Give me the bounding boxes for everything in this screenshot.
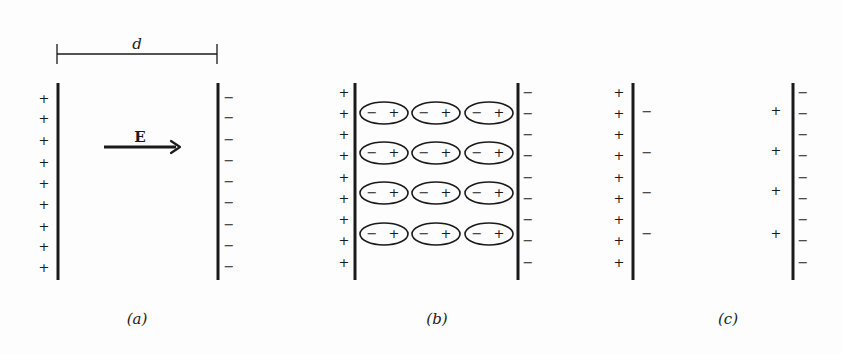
- dipole-molecule: −+: [360, 182, 408, 204]
- bound-positive-charge: +: [771, 103, 782, 118]
- dipole-negative-end: −: [472, 226, 483, 241]
- capacitor-dielectric-figure: +++++++++−−−−−−−−−dE(a) +++++++++−−−−−−−…: [0, 0, 842, 354]
- panel-b-polarized-dielectric: +++++++++−−−−−−−−−−+−+−+−+−+−+−+−+−+−+−+…: [339, 83, 534, 328]
- panel-a-empty-capacitor: +++++++++−−−−−−−−−dE(a): [39, 35, 235, 328]
- positive-charge: +: [339, 148, 350, 163]
- positive-charge: +: [39, 133, 50, 148]
- dipole-negative-end: −: [367, 145, 378, 160]
- negative-charge: −: [523, 127, 534, 142]
- negative-charge: −: [798, 106, 809, 121]
- positive-charge: +: [339, 85, 350, 100]
- panel-caption: (c): [718, 310, 738, 328]
- bound-positive-charge: +: [771, 183, 782, 198]
- dipole-negative-end: −: [472, 105, 483, 120]
- dipole-positive-end: +: [389, 145, 400, 160]
- negative-charge: −: [523, 106, 534, 121]
- positive-charge: +: [614, 212, 625, 227]
- plate-separation-label: d: [132, 35, 142, 53]
- bound-positive-charge: +: [771, 143, 782, 158]
- positive-charge: +: [39, 197, 50, 212]
- negative-charge: −: [523, 170, 534, 185]
- bound-negative-charge: −: [642, 104, 653, 119]
- bound-positive-charge: +: [771, 226, 782, 241]
- negative-charge: −: [224, 195, 235, 210]
- negative-charge: −: [798, 212, 809, 227]
- dipole-positive-end: +: [494, 226, 505, 241]
- negative-charge: −: [224, 153, 235, 168]
- panel-caption: (b): [426, 310, 447, 328]
- positive-charge: +: [339, 106, 350, 121]
- negative-charge: −: [798, 191, 809, 206]
- dipole-negative-end: −: [367, 226, 378, 241]
- panel-c-bound-surface-charges: +++++++++−−−−−−−−−−−−−++++(c): [614, 83, 809, 328]
- dipole-molecule: −+: [360, 142, 408, 164]
- negative-charge: −: [798, 127, 809, 142]
- positive-charge: +: [339, 233, 350, 248]
- dipole-molecule: −+: [412, 182, 460, 204]
- negative-charge: −: [798, 233, 809, 248]
- dipole-negative-end: −: [419, 226, 430, 241]
- negative-charge: −: [224, 90, 235, 105]
- dipole-negative-end: −: [367, 105, 378, 120]
- bound-negative-charge: −: [642, 145, 653, 160]
- positive-charge: +: [614, 85, 625, 100]
- dipole-positive-end: +: [494, 185, 505, 200]
- positive-charge: +: [39, 155, 50, 170]
- bound-negative-charge: −: [642, 185, 653, 200]
- dipole-positive-end: +: [441, 185, 452, 200]
- negative-charge: −: [798, 255, 809, 270]
- positive-charge: +: [614, 255, 625, 270]
- positive-charge: +: [39, 239, 50, 254]
- negative-charge: −: [224, 259, 235, 274]
- positive-charge: +: [339, 191, 350, 206]
- dipole-molecule: −+: [465, 223, 513, 245]
- negative-charge: −: [523, 255, 534, 270]
- negative-charge: −: [798, 85, 809, 100]
- positive-charge: +: [39, 219, 50, 234]
- dipole-positive-end: +: [494, 105, 505, 120]
- negative-charge: −: [523, 233, 534, 248]
- negative-charge: −: [798, 170, 809, 185]
- negative-charge: −: [523, 191, 534, 206]
- dipole-negative-end: −: [419, 145, 430, 160]
- bound-negative-charge: −: [642, 226, 653, 241]
- dipole-molecule: −+: [360, 102, 408, 124]
- dipole-molecule: −+: [412, 223, 460, 245]
- negative-charge: −: [224, 238, 235, 253]
- negative-charge: −: [523, 148, 534, 163]
- positive-charge: +: [614, 170, 625, 185]
- dipole-positive-end: +: [441, 226, 452, 241]
- negative-charge: −: [224, 132, 235, 147]
- negative-charge: −: [224, 217, 235, 232]
- dipole-positive-end: +: [389, 185, 400, 200]
- dipole-molecule: −+: [412, 102, 460, 124]
- positive-charge: +: [339, 255, 350, 270]
- dipole-positive-end: +: [441, 145, 452, 160]
- panel-caption: (a): [127, 310, 148, 328]
- dipole-molecule: −+: [465, 182, 513, 204]
- dipole-molecule: −+: [412, 142, 460, 164]
- dipole-negative-end: −: [419, 105, 430, 120]
- positive-charge: +: [614, 106, 625, 121]
- dipole-positive-end: +: [389, 105, 400, 120]
- positive-charge: +: [339, 212, 350, 227]
- dipole-molecule: −+: [465, 142, 513, 164]
- positive-charge: +: [614, 233, 625, 248]
- dipole-molecule: −+: [465, 102, 513, 124]
- dipole-negative-end: −: [472, 145, 483, 160]
- dipole-positive-end: +: [494, 145, 505, 160]
- dipole-positive-end: +: [389, 226, 400, 241]
- dipole-positive-end: +: [441, 105, 452, 120]
- dipole-negative-end: −: [472, 185, 483, 200]
- positive-charge: +: [339, 127, 350, 142]
- dipole-negative-end: −: [419, 185, 430, 200]
- positive-charge: +: [614, 127, 625, 142]
- negative-charge: −: [523, 85, 534, 100]
- negative-charge: −: [224, 110, 235, 125]
- negative-charge: −: [523, 212, 534, 227]
- dipole-negative-end: −: [367, 185, 378, 200]
- figure-svg: +++++++++−−−−−−−−−dE(a) +++++++++−−−−−−−…: [0, 0, 842, 354]
- positive-charge: +: [614, 148, 625, 163]
- positive-charge: +: [39, 91, 50, 106]
- negative-charge: −: [798, 148, 809, 163]
